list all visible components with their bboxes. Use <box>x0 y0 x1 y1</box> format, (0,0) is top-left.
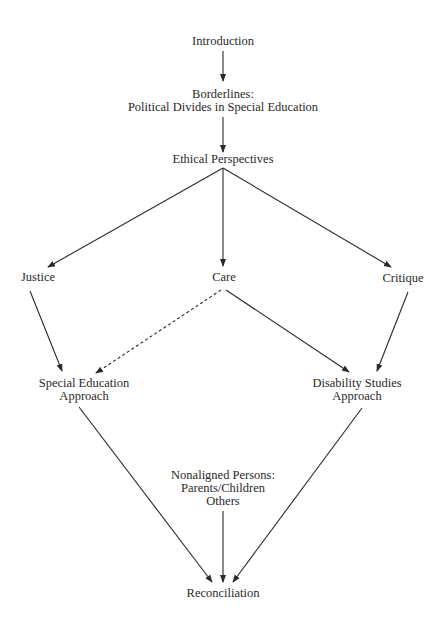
node-label: Political Divides in Special Education <box>128 101 318 114</box>
node-label: Ethical Perspectives <box>172 153 273 166</box>
edge-care-disability <box>226 290 349 372</box>
node-borderlines: Borderlines: Political Divides in Specia… <box>128 88 318 114</box>
node-label: Others <box>171 495 275 508</box>
node-justice: Justice <box>21 271 55 284</box>
edge-ethical-justice <box>48 168 223 267</box>
node-label: Reconciliation <box>187 587 260 600</box>
edge-justice-special-ed <box>30 291 62 371</box>
node-label: Critique <box>383 272 424 285</box>
node-nonaligned-persons: Nonaligned Persons: Parents/Children Oth… <box>171 469 275 508</box>
node-introduction: Introduction <box>192 35 254 48</box>
edge-care-special-ed <box>96 290 221 373</box>
node-label: Approach <box>39 390 130 403</box>
node-label: Justice <box>21 271 55 284</box>
node-label: Introduction <box>192 35 254 48</box>
node-critique: Critique <box>383 272 424 285</box>
edge-critique-disability <box>377 292 408 371</box>
node-reconciliation: Reconciliation <box>187 587 260 600</box>
node-label: Approach <box>312 390 401 403</box>
node-care: Care <box>212 271 236 284</box>
node-special-education-approach: Special Education Approach <box>39 377 130 403</box>
node-disability-studies-approach: Disability Studies Approach <box>312 377 401 403</box>
node-label: Care <box>212 271 236 284</box>
edge-ethical-critique <box>223 168 391 267</box>
node-ethical-perspectives: Ethical Perspectives <box>172 153 273 166</box>
